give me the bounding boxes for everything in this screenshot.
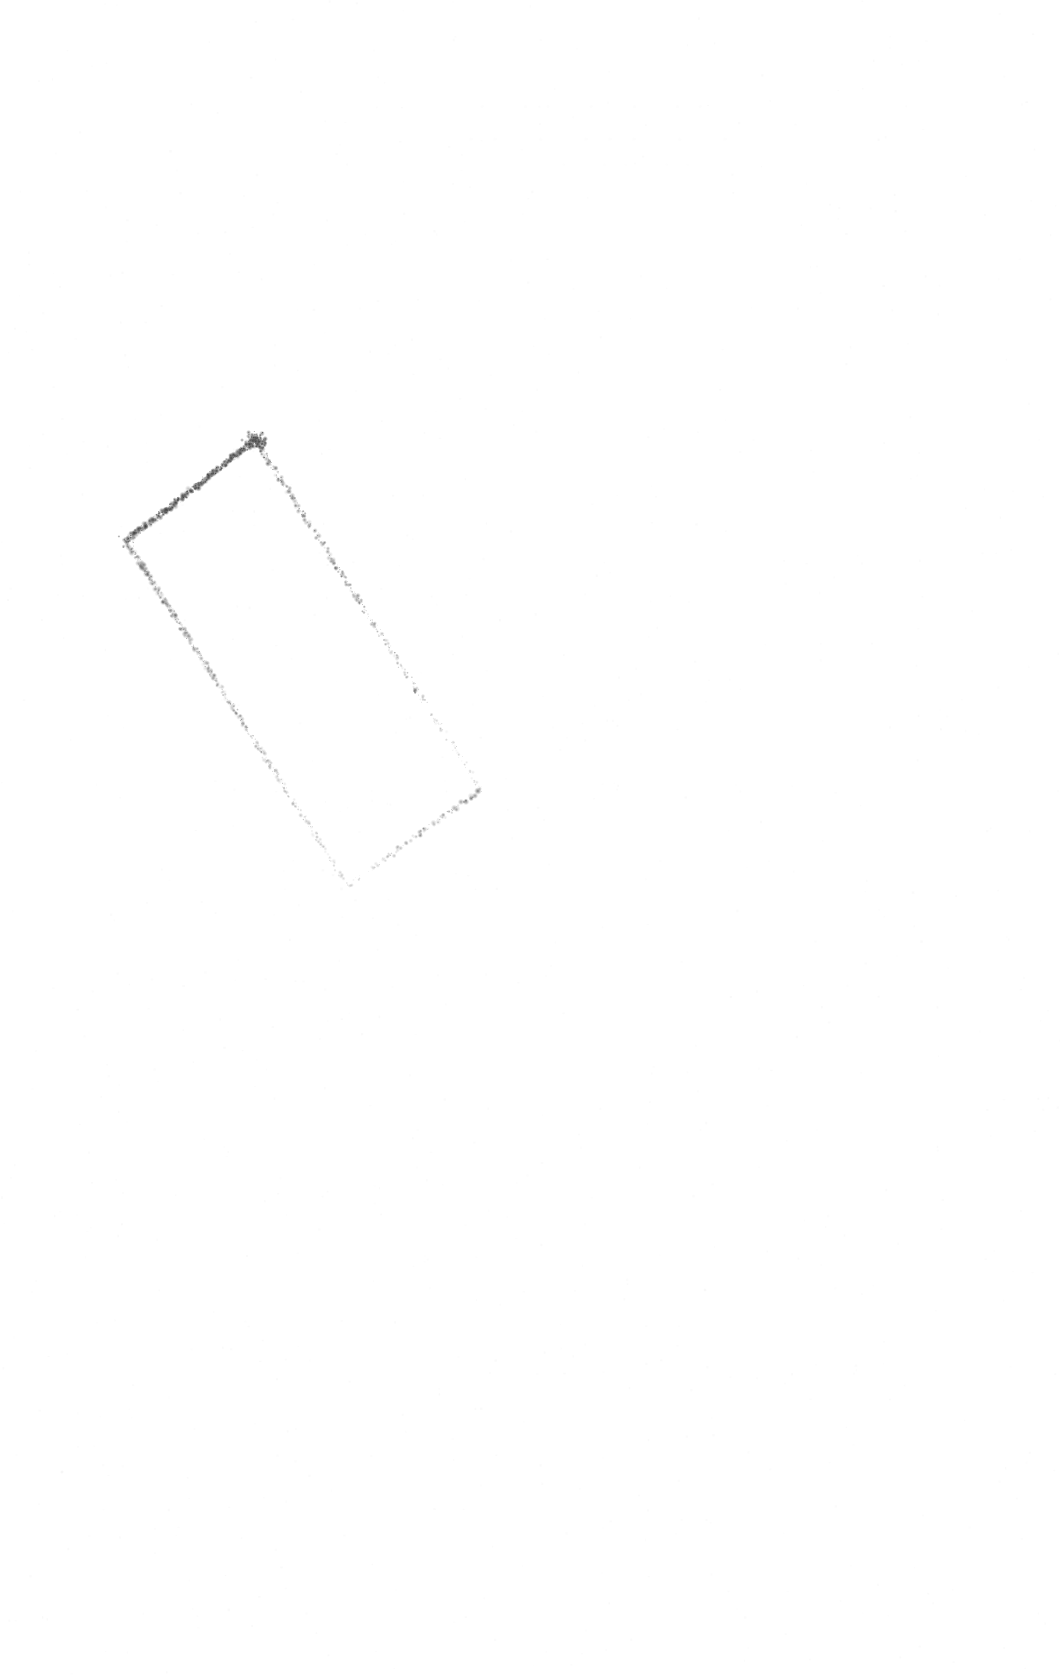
scanned-page: · ·· · · ···· · ··· · ·· ·· ·· Scanned p… bbox=[0, 0, 1060, 1675]
scanned-drawing-canvas bbox=[0, 0, 1060, 1675]
